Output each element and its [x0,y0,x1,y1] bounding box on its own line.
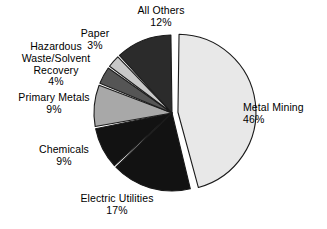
pie-label-primary-metals: Primary Metals 9% [2,92,106,116]
pie-label-electric-utilities: Electric Utilities 17% [62,193,172,217]
pie-label-electric-utilities-value: 17% [62,205,172,217]
pie-chart: All Others 12% Paper 3% Hazardous Waste/… [0,0,327,229]
pie-label-primary-metals-value: 9% [2,104,106,116]
pie-label-hazardous-waste-name-line1: Hazardous [2,41,110,53]
pie-label-metal-mining-value: 46% [243,114,325,126]
pie-label-all-others: All Others 12% [113,5,209,29]
pie-slices [94,34,256,191]
pie-label-chemicals-value: 9% [26,156,102,168]
pie-label-hazardous-waste-name-line2: Waste/Solvent [2,53,110,65]
pie-label-metal-mining-name: Metal Mining [243,102,325,114]
pie-label-metal-mining: Metal Mining 46% [243,102,325,126]
pie-label-chemicals: Chemicals 9% [26,144,102,168]
pie-label-electric-utilities-name: Electric Utilities [62,193,172,205]
pie-label-all-others-value: 12% [113,17,209,29]
pie-label-paper-name: Paper [72,28,118,40]
pie-label-all-others-name: All Others [113,5,209,17]
pie-label-chemicals-name: Chemicals [26,144,102,156]
pie-label-hazardous-waste: Hazardous Waste/Solvent Recovery 4% [2,41,110,88]
pie-label-primary-metals-name: Primary Metals [2,92,106,104]
pie-label-hazardous-waste-value: 4% [2,76,110,88]
